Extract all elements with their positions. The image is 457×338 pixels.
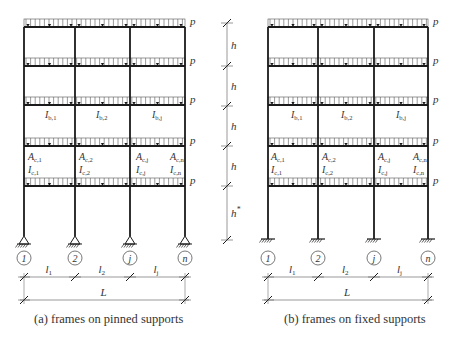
axis-label: n xyxy=(426,253,431,264)
distributed-load-floor-2 xyxy=(24,58,185,66)
storey-height-label: h xyxy=(231,39,237,51)
beam-inertia-label: Ib,1 xyxy=(44,109,56,121)
total-length-label: L xyxy=(343,286,350,298)
column-property-label: Ac,n xyxy=(412,151,428,163)
axis-label: 2 xyxy=(73,253,78,264)
span-label: lj xyxy=(154,263,159,277)
load-band xyxy=(24,58,185,66)
distributed-load-floor-2 xyxy=(268,58,428,66)
axis-label: 1 xyxy=(22,253,27,264)
load-band xyxy=(24,138,185,146)
span-label: l1 xyxy=(46,263,53,277)
column-property-label: Ac,n xyxy=(169,151,185,163)
load-label-p: p xyxy=(432,174,439,186)
span-label: l2 xyxy=(99,263,106,277)
distributed-load-floor-3 xyxy=(24,97,185,105)
height-dimension: hhhhh* xyxy=(221,19,241,244)
load-label-p: p xyxy=(189,93,196,105)
distributed-load-floor-1 xyxy=(268,19,428,27)
axis-label: n xyxy=(183,253,188,264)
load-label-p: p xyxy=(432,93,439,105)
span-label: l1 xyxy=(289,263,296,277)
column-property-label: Ic,n xyxy=(169,164,182,176)
pinned-support-icon xyxy=(70,236,80,244)
distributed-load-floor-4 xyxy=(24,138,185,146)
distributed-load-floor-4 xyxy=(268,138,428,146)
axis-label: 2 xyxy=(316,253,321,264)
load-label-p: p xyxy=(432,15,439,27)
span-label: lj xyxy=(397,263,402,277)
load-label-p: p xyxy=(189,174,196,186)
column-property-label: Ac,1 xyxy=(270,151,285,163)
storey-height-label: h xyxy=(231,160,237,172)
beam-inertia-label: Ib,2 xyxy=(340,109,352,121)
load-band xyxy=(24,97,185,105)
frame-diagram: ppppp12jnIb,1Ib,2Ib,jAc,1Ic,1Ac,2Ic,2Ac,… xyxy=(0,0,457,338)
column-property-label: Ac,j xyxy=(135,151,149,163)
beam-inertia-label: Ib,2 xyxy=(95,109,107,121)
beam-inertia-label: Ib,1 xyxy=(290,109,302,121)
column-property-label: Ic,j xyxy=(135,164,146,176)
distributed-load-floor-3 xyxy=(268,97,428,105)
load-label-p: p xyxy=(432,54,439,66)
axis-label: 1 xyxy=(266,253,271,264)
storey-height-label: h* xyxy=(231,205,241,219)
column-property-label: Ic,1 xyxy=(27,164,39,176)
load-band xyxy=(24,19,185,27)
frame-a: ppppp12jnIb,1Ib,2Ib,jAc,1Ic,1Ac,2Ic,2Ac,… xyxy=(16,15,197,304)
distributed-load-floor-5 xyxy=(268,178,428,186)
span-label: l2 xyxy=(342,263,349,277)
column-property-label: Ic,j xyxy=(377,164,388,176)
column-property-label: Ic,n xyxy=(412,164,425,176)
storey-height-label: h xyxy=(231,120,237,132)
pinned-support-icon xyxy=(125,236,135,244)
pinned-support-icon xyxy=(180,236,190,244)
column-property-label: Ic,1 xyxy=(270,164,282,176)
load-label-p: p xyxy=(189,15,196,27)
total-length-label: L xyxy=(100,286,107,298)
beam-inertia-label: Ib,j xyxy=(395,109,406,121)
column-property-label: Ac,2 xyxy=(321,151,336,163)
column-property-label: Ic,2 xyxy=(321,164,333,176)
column-property-label: Ac,2 xyxy=(78,151,93,163)
storey-height-label: h xyxy=(231,80,237,92)
pinned-support-icon xyxy=(19,236,29,244)
column-property-label: Ic,2 xyxy=(78,164,90,176)
load-band xyxy=(24,178,185,186)
load-label-p: p xyxy=(432,134,439,146)
caption-a: (a) frames on pinned supports xyxy=(34,312,183,327)
distributed-load-floor-1 xyxy=(24,19,185,27)
caption-b: (b) frames on fixed supports xyxy=(284,312,426,327)
load-label-p: p xyxy=(189,54,196,66)
column-property-label: Ac,1 xyxy=(27,151,42,163)
load-label-p: p xyxy=(189,134,196,146)
distributed-load-floor-5 xyxy=(24,178,185,186)
beam-inertia-label: Ib,j xyxy=(151,109,162,121)
frame-b: ppppp12jnIb,1Ib,2Ib,jAc,1Ic,1Ac,2Ic,2Ac,… xyxy=(260,15,440,304)
column-property-label: Ac,j xyxy=(377,151,391,163)
